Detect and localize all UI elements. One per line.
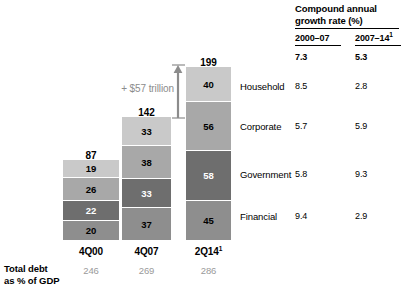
bar-segment-government[interactable]: 33 [122,179,171,208]
bar-segment-corporate[interactable]: 26 [63,178,119,201]
column-header-footnote: 1 [389,31,393,38]
chart-page: 87 19 26 22 20 4Q00 246 142 33 38 33 37 … [0,0,401,291]
bar-segment-financial[interactable]: 37 [122,208,171,240]
bar-stack: 40 56 58 45 [186,67,231,240]
bar-segment-household[interactable]: 40 [186,67,231,102]
table-cell-government-2007-14: 9.3 [355,169,367,179]
table-cell-government-2000-07: 5.8 [295,169,307,179]
category-label-household: Household [240,81,285,92]
table-cell-financial-2000-07: 9.4 [295,211,307,221]
x-axis-label-4q07: 4Q07 [122,246,171,257]
table-column-header-2007-14: 2007–141 [355,33,393,43]
table-column-rule-1 [295,45,341,46]
table-cell-total-2000-07: 7.3 [295,52,307,62]
table-top-rule [295,28,399,29]
column-header-text: 2007–14 [355,33,389,43]
footer-label: Total debt as % of GDP [4,263,59,286]
growth-rate-table: Compound annual growth rate (%) 2000–07 … [293,0,401,291]
category-label-financial: Financial [240,211,277,222]
bar-segment-financial[interactable]: 45 [186,201,231,240]
table-cell-corporate-2007-14: 5.9 [355,121,367,131]
delta-arrow-icon [168,62,188,122]
category-label-government: Government [240,169,291,180]
table-cell-household-2007-14: 2.8 [355,81,367,91]
bar-stack: 19 26 22 20 [63,160,119,240]
gdp-value-4q00: 246 [63,265,119,276]
bar-segment-corporate[interactable]: 56 [186,102,231,151]
bar-segment-corporate[interactable]: 38 [122,146,171,179]
table-cell-financial-2007-14: 2.9 [355,211,367,221]
gdp-value-4q07: 269 [122,265,171,276]
bar-segment-household[interactable]: 33 [122,117,171,146]
stacked-bar-chart: 87 19 26 22 20 4Q00 246 142 33 38 33 37 … [0,0,235,291]
table-cell-total-2007-14: 5.3 [355,52,367,62]
bar-segment-financial[interactable]: 20 [63,221,119,240]
x-axis-label-2q14: 2Q141 [186,246,231,257]
delta-annotation-label: + $57 trillion [96,83,174,94]
bar-segment-household[interactable]: 19 [63,160,119,178]
table-column-header-2000-07: 2000–07 [295,33,329,43]
bar-segment-government[interactable]: 58 [186,151,231,201]
x-axis-label-text: 2Q14 [195,246,219,257]
x-axis-label-4q00: 4Q00 [63,246,119,257]
table-cell-corporate-2000-07: 5.7 [295,121,307,131]
table-cell-household-2000-07: 8.5 [295,81,307,91]
table-column-rule-2 [355,45,401,46]
category-label-corporate: Corporate [240,121,281,132]
column-header-text: 2000–07 [295,33,329,43]
x-axis-label-text: 4Q07 [134,246,158,257]
x-axis-label-footnote: 1 [219,245,223,252]
bar-segment-government[interactable]: 22 [63,201,119,221]
table-title: Compound annual growth rate (%) [295,3,401,26]
gdp-value-2q14: 286 [186,265,231,276]
bar-stack: 33 38 33 37 [122,117,171,240]
x-axis-label-text: 4Q00 [79,246,103,257]
